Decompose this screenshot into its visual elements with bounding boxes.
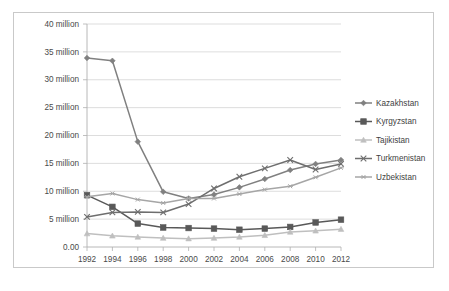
data-point-marker-star xyxy=(338,166,344,170)
data-point-marker-diamond xyxy=(287,167,293,173)
y-axis-tick-label: 10 million xyxy=(44,187,79,196)
y-axis-tick-label: 30 million xyxy=(44,75,79,84)
series-kazakhstan xyxy=(84,55,344,201)
y-axis-tick-label: 15 million xyxy=(44,159,79,168)
y-axis-tick-label: 25 million xyxy=(44,103,79,112)
data-point-marker-square xyxy=(160,225,166,231)
legend-item-tajikistan[interactable]: Tajikistan xyxy=(355,136,410,145)
data-series xyxy=(84,55,344,241)
data-point-marker-square xyxy=(237,227,243,233)
data-point-marker-cross xyxy=(211,186,217,192)
x-axis-tick-label: 1996 xyxy=(129,255,148,264)
legend-label: Kazakhstan xyxy=(376,99,419,108)
x-axis-tick-label: 1994 xyxy=(103,255,122,264)
data-point-marker-star xyxy=(237,192,243,196)
y-axis-tick-label: 35 million xyxy=(44,48,79,57)
data-point-marker-diamond xyxy=(262,176,268,182)
x-axis-labels: 1992199419961998200020022004200620082010… xyxy=(78,255,351,264)
data-point-marker-diamond xyxy=(237,185,243,191)
data-point-marker-star xyxy=(361,175,367,179)
data-point-marker-star xyxy=(160,201,166,205)
x-axis-tick-label: 2012 xyxy=(332,255,351,264)
chart-legend[interactable]: KazakhstanKyrgyzstanTajikistanTurkmenist… xyxy=(355,99,426,182)
data-point-marker-star xyxy=(135,198,141,202)
data-point-marker-square xyxy=(338,217,344,223)
legend-label: Turkmenistan xyxy=(376,154,426,163)
legend-item-turkmenistan[interactable]: Turkmenistan xyxy=(355,154,426,163)
x-axis-tick-label: 2010 xyxy=(306,255,325,264)
data-point-marker-square xyxy=(186,225,192,231)
x-axis-tick-label: 2000 xyxy=(179,255,198,264)
series-line-kazakhstan xyxy=(87,58,341,198)
data-point-marker-square xyxy=(135,221,141,227)
legend-item-kazakhstan[interactable]: Kazakhstan xyxy=(355,99,419,108)
data-point-marker-diamond xyxy=(135,139,141,145)
x-axis-tick-label: 2006 xyxy=(256,255,275,264)
chart-frame: 0.005 million10 million15 million20 mill… xyxy=(13,12,434,268)
data-point-marker-square xyxy=(110,204,116,210)
legend-item-kyrgyzstan[interactable]: Kyrgyzstan xyxy=(355,117,417,126)
data-point-marker-diamond xyxy=(160,189,166,195)
data-point-marker-square xyxy=(211,226,217,232)
data-point-marker-diamond xyxy=(313,161,319,167)
y-axis-tick-label: 20 million xyxy=(44,131,79,140)
y-axis-labels: 0.005 million10 million15 million20 mill… xyxy=(44,20,79,252)
legend-label: Kyrgyzstan xyxy=(376,117,417,126)
legend-label: Tajikistan xyxy=(376,136,410,145)
x-axis-tick-label: 2004 xyxy=(230,255,249,264)
x-axis-tick-label: 2008 xyxy=(281,255,300,264)
x-axis-tick-label: 2002 xyxy=(205,255,224,264)
line-chart: 0.005 million10 million15 million20 mill… xyxy=(14,13,433,267)
legend-item-uzbekistan[interactable]: Uzbekistan xyxy=(355,173,417,182)
y-axis-tick-label: 40 million xyxy=(44,20,79,29)
data-point-marker-square xyxy=(262,226,268,232)
x-axis-tick-label: 1998 xyxy=(154,255,173,264)
data-point-marker-diamond xyxy=(84,55,90,61)
y-axis-tick-label: 5 million xyxy=(49,215,79,224)
data-point-marker-square xyxy=(313,220,319,226)
series-uzbekistan xyxy=(84,166,344,205)
legend-label: Uzbekistan xyxy=(376,173,417,182)
data-point-marker-star xyxy=(313,175,319,179)
data-point-marker-star xyxy=(110,192,116,196)
data-point-marker-diamond xyxy=(110,58,116,64)
x-axis-tick-label: 1992 xyxy=(78,255,97,264)
data-point-marker-square xyxy=(361,119,367,125)
y-axis-tick-label: 0.00 xyxy=(63,243,79,252)
gridlines xyxy=(87,24,341,219)
data-point-marker-star xyxy=(287,184,293,188)
data-point-marker-diamond xyxy=(361,100,367,106)
axis-ticks xyxy=(83,24,341,251)
